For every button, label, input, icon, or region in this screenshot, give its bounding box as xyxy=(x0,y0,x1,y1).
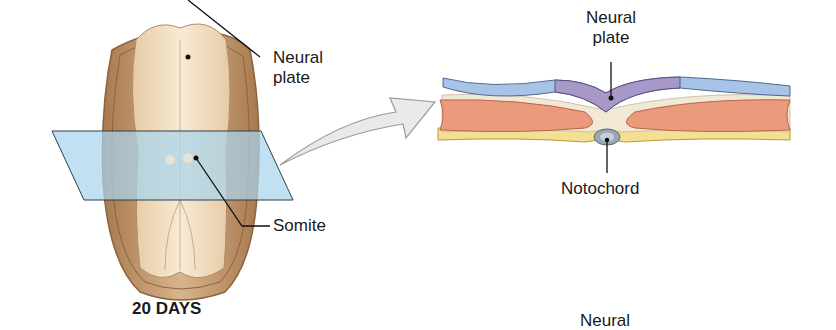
label-line: plate xyxy=(571,28,651,48)
stage-label: 20 DAYS xyxy=(132,299,201,319)
label-line: plate xyxy=(273,68,323,88)
neural-label-cutoff: Neural xyxy=(580,311,630,330)
label-line: Neural xyxy=(273,48,323,68)
somite-label: Somite xyxy=(273,216,326,236)
cross-section xyxy=(438,77,790,145)
transition-arrow xyxy=(280,98,435,165)
section-plane xyxy=(52,131,293,200)
neural-plate-label-left: Neural plate xyxy=(273,48,323,88)
neural-plate-label-right: Neural plate xyxy=(571,8,651,48)
notochord-label: Notochord xyxy=(561,179,639,199)
label-line: Neural xyxy=(571,8,651,28)
